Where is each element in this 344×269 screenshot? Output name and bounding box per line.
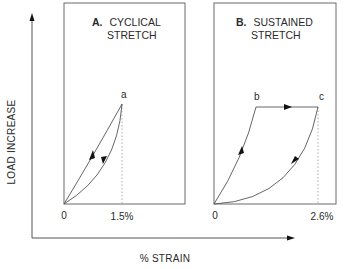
panel-b-title-line2: STRETCH (251, 29, 301, 41)
panel-b-strain-label: 2.6% (311, 211, 334, 222)
panel-a-origin-label: 0 (61, 210, 67, 221)
panel-a-strain-label: 1.5% (111, 211, 134, 222)
y-axis-arrow-icon (30, 13, 35, 21)
panel-a-title: A. CYCLICAL (92, 16, 161, 28)
x-axis (32, 236, 295, 241)
y-axis (30, 13, 35, 238)
panel-a-down-arrow-icon (101, 156, 107, 164)
panel-a-up-arrow-icon (89, 150, 95, 160)
panel-a-letter: A. (92, 16, 103, 28)
panel-sustained-stretch: B. SUSTAINED STRETCH b c 0 2.6% (212, 3, 336, 222)
panel-a-title-line2: STRETCH (107, 29, 157, 41)
panel-b-title: B. SUSTAINED (236, 16, 313, 28)
x-axis-label: % STRAIN (140, 253, 191, 264)
panel-a-title-line1: CYCLICAL (109, 16, 161, 28)
panel-b-unloading-curve (214, 107, 318, 204)
y-axis-label: LOAD INCREASE (6, 99, 17, 184)
x-axis-arrow-icon (287, 236, 295, 241)
load-strain-diagram: LOAD INCREASE % STRAIN A. CYCLICAL STRET… (0, 0, 344, 269)
panel-b-point-c-label: c (319, 91, 324, 102)
panel-b-letter: B. (236, 16, 247, 28)
panel-b-point-b-label: b (254, 91, 260, 102)
panel-b-origin-label: 0 (212, 210, 218, 221)
panel-cyclical-stretch: A. CYCLICAL STRETCH a 0 1.5% (61, 3, 185, 222)
panel-b-right-arrow-icon (284, 104, 292, 110)
panel-a-point-a-label: a (121, 89, 127, 100)
panel-b-loading-curve (214, 107, 256, 204)
panel-b-title-line1: SUSTAINED (253, 16, 313, 28)
